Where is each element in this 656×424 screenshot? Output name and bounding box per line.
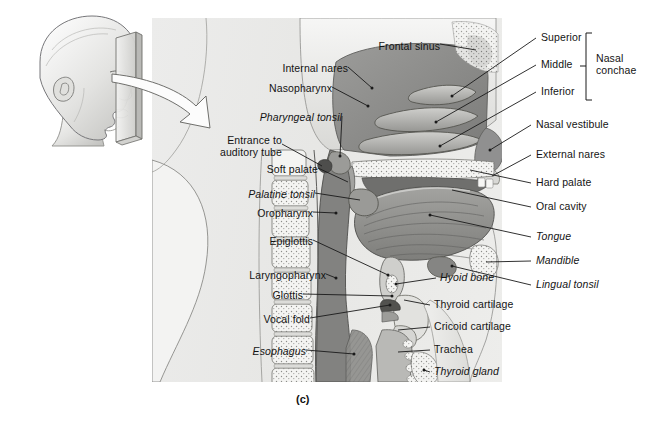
label-nasopharynx: Nasopharynx: [180, 83, 332, 95]
head-inset-artwork: [40, 16, 142, 146]
label-lingual-tonsil: Lingual tonsil: [536, 279, 599, 291]
label-external-nares: External nares: [536, 149, 605, 161]
label-middle: Middle: [541, 59, 573, 71]
label-inferior: Inferior: [541, 86, 574, 98]
label-cricoid-cartilage: Cricoid cartilage: [434, 321, 511, 333]
label-trachea: Trachea: [434, 344, 473, 356]
label-internal-nares: Internal nares: [180, 63, 348, 75]
label-oral-cavity: Oral cavity: [536, 201, 587, 213]
label-nasal-conchae: Nasal conchae: [596, 53, 636, 76]
label-epiglottis: Epiglottis: [180, 236, 313, 248]
label-glottis: Glottis: [180, 290, 303, 302]
label-superior: Superior: [541, 32, 582, 44]
figure-root: Internal nares Nasopharynx Pharyngeal to…: [0, 0, 656, 424]
label-esophagus: Esophagus: [175, 346, 306, 358]
label-oropharynx: Oropharynx: [180, 208, 313, 220]
label-soft-palate: Soft palate: [180, 164, 318, 176]
label-hard-palate: Hard palate: [536, 177, 591, 189]
label-laryngopharynx: Laryngopharynx: [170, 270, 326, 282]
figure-caption: (c): [296, 393, 309, 405]
label-palatine-tonsil: Palatine tonsil: [170, 189, 315, 201]
label-frontal-sinus: Frontal sinus: [355, 41, 440, 53]
label-pharyngeal-tonsil: Pharyngeal tonsil: [170, 112, 342, 124]
label-hyoid-bone: Hyoid bone: [440, 272, 494, 284]
label-thyroid-gland: Thyroid gland: [434, 366, 499, 378]
label-thyroid-cartilage: Thyroid cartilage: [434, 299, 513, 311]
label-tongue: Tongue: [536, 231, 571, 243]
label-entrance-to-auditory-tube: Entrance to auditory tube: [170, 135, 282, 158]
label-vocal-fold: Vocal fold: [180, 314, 310, 326]
label-nasal-vestibule: Nasal vestibule: [536, 119, 609, 131]
label-mandible: Mandible: [536, 255, 579, 267]
